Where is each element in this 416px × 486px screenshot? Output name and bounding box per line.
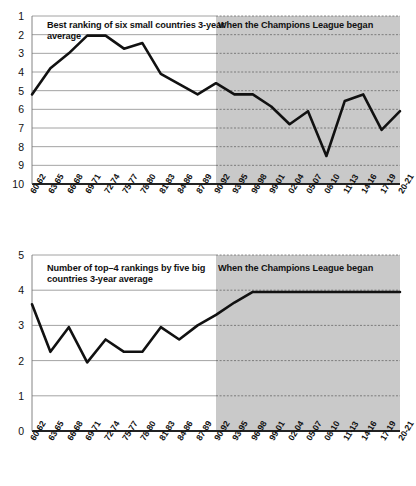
y-axis-tick-label: 8 bbox=[2, 142, 24, 152]
y-axis-tick-label: 3 bbox=[2, 320, 24, 330]
y-axis-tick-label: 7 bbox=[2, 123, 24, 133]
y-axis-tick-label: 0 bbox=[2, 426, 24, 436]
y-axis-tick-label: 3 bbox=[2, 48, 24, 58]
y-axis-tick-label: 1 bbox=[2, 11, 24, 21]
y-axis-tick-label: 4 bbox=[2, 67, 24, 77]
chart-2-title: Number of top–4 rankings by five big cou… bbox=[47, 263, 227, 285]
y-axis-tick-label: 2 bbox=[2, 30, 24, 40]
y-axis-tick-label: 6 bbox=[2, 104, 24, 114]
chart-1-shade-label: When the Champions League began bbox=[218, 20, 398, 31]
chart-best-ranking-small-countries: Best ranking of six small countries 3-ye… bbox=[0, 0, 409, 243]
y-axis-tick-label: 5 bbox=[2, 86, 24, 96]
y-axis-tick-label: 4 bbox=[2, 285, 24, 295]
y-axis-tick-label: 10 bbox=[2, 179, 24, 189]
y-axis-tick-label: 1 bbox=[2, 391, 24, 401]
y-axis-tick-label: 2 bbox=[2, 356, 24, 366]
chart-top4-rankings-big-countries: Number of top–4 rankings by five big cou… bbox=[0, 243, 409, 486]
y-axis-tick-label: 5 bbox=[2, 250, 24, 260]
chart-2-shade-label: When the Champions League began bbox=[218, 263, 398, 274]
y-axis-tick-label: 9 bbox=[2, 160, 24, 170]
chart-1-title: Best ranking of six small countries 3-ye… bbox=[47, 20, 227, 42]
